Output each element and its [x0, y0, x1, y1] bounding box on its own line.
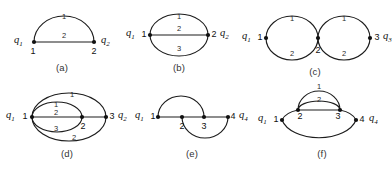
vertex-node-1-f	[280, 118, 284, 122]
vertex-node-1-d	[30, 115, 34, 119]
vertex-label-3-c: 3	[374, 32, 379, 42]
diagram-panel-d: 1 2 1 2 3 1 2 3 q1 q2 (d)	[2, 84, 132, 168]
q-label-2-b: q2	[220, 27, 229, 40]
vertex-node-3-c	[368, 36, 372, 40]
edge-arc-lower-f	[282, 120, 356, 138]
panel-caption-f: (f)	[252, 148, 392, 159]
vertex-label-2-f: 2	[297, 111, 302, 121]
edge-label-1-f: 1	[317, 82, 321, 91]
q-label-1-c: q1	[242, 30, 251, 43]
vertex-node-2-a	[92, 40, 96, 44]
panel-caption-d: (d)	[2, 148, 132, 159]
vertex-label-2-c: 2	[315, 45, 320, 55]
vertex-node-4-e	[226, 115, 230, 119]
edge-label-left-bottom-c: 2	[290, 49, 294, 58]
panel-caption-e: (e)	[132, 148, 252, 159]
edge-label-right-bottom-c: 2	[342, 49, 346, 58]
figure-sheet: 1 2 1 2 q1 q2 (a) 1 2 3 1 2 q1 q2 (b)	[0, 0, 392, 169]
edge-label-right-top-c: 1	[342, 14, 346, 23]
q-label-1-e: q1	[135, 109, 144, 122]
edge-label-outer-top-d: 1	[70, 90, 74, 99]
edge-label-left-top-c: 1	[290, 14, 294, 23]
vertex-label-3-e: 3	[201, 121, 206, 131]
vertex-node-3-e	[202, 115, 206, 119]
vertex-label-1-e: 1	[150, 111, 155, 121]
vertex-label-3-f: 3	[335, 111, 340, 121]
vertex-label-1-a: 1	[30, 46, 35, 56]
edge-label-2-a: 2	[62, 31, 66, 40]
vertex-label-1-c: 1	[257, 32, 262, 42]
edge-right-down-f	[340, 110, 356, 120]
edge-left-down-f	[282, 110, 298, 120]
vertex-node-2-c	[316, 36, 320, 40]
vertex-label-1-d: 1	[22, 111, 27, 121]
diagram-panel-f: 1 2 1 2 3 4 q1 q4 (f)	[252, 84, 392, 168]
edge-label-inner-2-d: 2	[54, 108, 58, 117]
q-label-1-b: q1	[126, 27, 135, 40]
edge-label-1-b: 1	[177, 12, 181, 21]
vertex-label-2-a: 2	[91, 46, 96, 56]
diagram-panel-c: 1 2 1 2 1 2 3 q1 q3 (c)	[238, 2, 392, 82]
vertex-node-1-a	[32, 40, 36, 44]
q-label-1-f: q1	[258, 112, 267, 125]
edge-label-2-b: 2	[177, 24, 181, 33]
vertex-node-1-c	[264, 36, 268, 40]
vertex-label-3-d: 3	[109, 111, 114, 121]
diagram-panel-b: 1 2 3 1 2 q1 q2 (b)	[120, 2, 238, 82]
vertex-label-4-e: 4	[230, 111, 235, 121]
q-label-1-d: q1	[6, 109, 15, 122]
edge-label-3-b: 3	[177, 44, 181, 53]
edge-label-inner-3-d: 3	[54, 124, 58, 133]
q-label-3-d: q2	[118, 109, 127, 122]
diagram-panel-a: 1 2 1 2 q1 q2 (a)	[2, 2, 122, 82]
vertex-label-2-e: 2	[179, 121, 184, 131]
q-label-4-e: q4	[239, 109, 248, 122]
vertex-node-2-d	[80, 115, 84, 119]
vertex-label-2-b: 2	[211, 29, 216, 39]
edge-arc-above-e	[158, 96, 204, 117]
vertex-node-1-b	[148, 33, 152, 37]
diagram-panel-e: 1 2 3 4 q1 q4 (e)	[132, 84, 252, 168]
vertex-label-2-d: 2	[80, 121, 85, 131]
vertex-node-3-d	[104, 115, 108, 119]
panel-caption-a: (a)	[2, 62, 122, 73]
q-label-2-a: q2	[101, 34, 110, 47]
vertex-label-1-f: 1	[273, 114, 278, 124]
vertex-node-1-e	[156, 115, 160, 119]
vertex-label-4-f: 4	[359, 114, 364, 124]
vertex-label-1-b: 1	[141, 29, 146, 39]
panel-caption-b: (b)	[120, 62, 238, 73]
vertex-node-2-e	[180, 115, 184, 119]
q-label-3-c: q3	[383, 30, 392, 43]
q-label-4-f: q4	[369, 112, 378, 125]
q-label-1-a: q1	[14, 34, 23, 47]
panel-caption-c: (c)	[238, 66, 392, 77]
vertex-node-2-b	[206, 33, 210, 37]
edge-label-outer-bottom-d: 2	[72, 133, 76, 142]
edge-label-1-a: 1	[62, 12, 66, 21]
edge-label-2-f: 2	[317, 95, 321, 104]
vertex-node-4-f	[354, 118, 358, 122]
